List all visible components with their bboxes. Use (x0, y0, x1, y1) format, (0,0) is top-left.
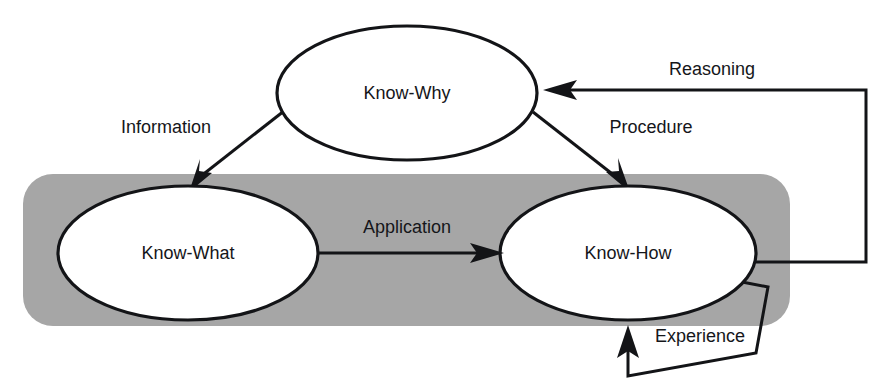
edge-label-reasoning: Reasoning (669, 59, 755, 79)
edge-label-information: Information (121, 117, 211, 137)
knowledge-cycle-diagram: Know-What Know-How Know-Why Information … (0, 0, 887, 388)
edge-label-application: Application (363, 217, 451, 237)
know-why-label: Know-Why (363, 83, 450, 103)
know-what-label: Know-What (141, 243, 234, 263)
node-know-what[interactable]: Know-What (58, 186, 318, 320)
node-know-why[interactable]: Know-Why (277, 26, 537, 160)
node-know-how[interactable]: Know-How (500, 186, 756, 320)
edge-procedure-path (533, 112, 620, 180)
diagram-canvas: Know-What Know-How Know-Why Information … (0, 0, 887, 388)
edge-label-experience: Experience (655, 326, 745, 346)
edge-label-procedure: Procedure (609, 117, 692, 137)
know-how-label: Know-How (584, 243, 672, 263)
